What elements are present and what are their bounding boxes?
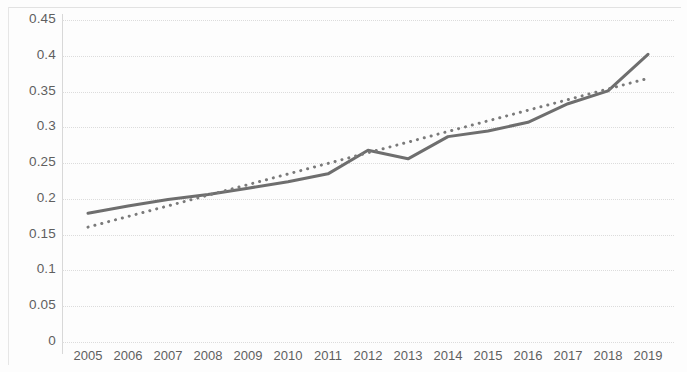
y-axis-tick-label: 0.35 (8, 83, 56, 98)
x-axis-tick-label: 2019 (626, 348, 670, 363)
y-axis-tick-label: 0.05 (8, 297, 56, 312)
y-axis-tick-label: 0.2 (8, 190, 56, 205)
x-axis-tick-label: 2013 (386, 348, 430, 363)
x-axis-tick-label: 2011 (306, 348, 350, 363)
gridline (62, 342, 674, 343)
y-axis-tick-label: 0.4 (8, 47, 56, 62)
x-axis-tick-label: 2006 (106, 348, 150, 363)
series-line-path (88, 54, 648, 213)
y-axis-tick-label: 0.3 (8, 118, 56, 133)
x-axis-tick-label: 2016 (506, 348, 550, 363)
trendline-path (88, 78, 648, 227)
x-axis-tick-labels: 2005200620072008200920102011201220132014… (62, 348, 674, 368)
x-axis-tick-label: 2007 (146, 348, 190, 363)
series-layer (62, 20, 674, 342)
y-axis-tick-label: 0.1 (8, 261, 56, 276)
plot-area (62, 20, 674, 342)
chart-frame-top-border (8, 7, 681, 8)
y-axis-tick-labels: 0.450.40.350.30.250.20.150.10.050 (0, 20, 56, 342)
y-axis-tick-label: 0 (8, 333, 56, 348)
x-axis-tick-label: 2017 (546, 348, 590, 363)
x-axis-tick-label: 2009 (226, 348, 270, 363)
x-axis-tick-label: 2012 (346, 348, 390, 363)
x-axis-tick-label: 2008 (186, 348, 230, 363)
x-axis-tick-label: 2018 (586, 348, 630, 363)
line-chart: 0.450.40.350.30.250.20.150.10.050 200520… (0, 0, 687, 372)
y-axis-tick-label: 0.15 (8, 226, 56, 241)
x-axis-tick-label: 2010 (266, 348, 310, 363)
y-axis-tick-label: 0.45 (8, 11, 56, 26)
x-axis-tick-label: 2005 (66, 348, 110, 363)
x-axis-tick-label: 2014 (426, 348, 470, 363)
x-axis-tick-label: 2015 (466, 348, 510, 363)
y-axis-tick-label: 0.25 (8, 154, 56, 169)
